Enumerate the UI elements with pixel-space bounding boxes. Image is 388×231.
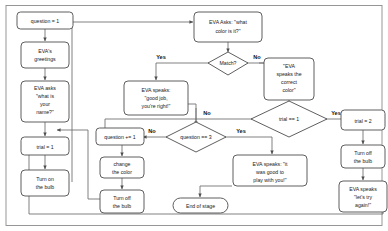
node-asks-color-line1: color is it?" [215,28,240,34]
edge-goodtoplay-endofstage [200,186,232,197]
node-good-to-play-line2: play with you!" [253,177,286,183]
edge-label-trial-no: No [203,110,211,116]
node-question1-line0: question = 1 [31,18,60,24]
node-try-again[interactable]: EVA speaks "let's try again!" [339,181,387,212]
node-turn-on-bulb-line0: Turn on [36,176,54,182]
node-good-job[interactable]: EVA speaks: "good job, you're right!" [124,81,188,115]
node-change-color[interactable]: change the color [100,157,144,178]
node-try-again-line1: "let's try [354,194,373,200]
node-asks-name-line2: your [40,101,50,107]
node-good-job-line2: you're right!" [142,103,171,109]
node-greetings[interactable]: EVA's greetings [21,42,69,68]
node-correct-color-line0: "EVA [283,63,295,69]
node-good-to-play[interactable]: EVA speaks: "it was good to play with yo… [233,155,307,186]
node-good-to-play-line1: was good to [256,169,284,175]
node-asks-color-line0: EVA Asks: "what [209,19,247,25]
node-turn-on-bulb-line1: the bulb [36,184,55,190]
node-trial1-line0: trial = 1 [36,144,53,150]
edge-match-goodjob-yes [156,63,209,80]
edge-label-trial-yes: Yes [331,110,341,116]
flowchart-canvas: Yes No Yes No No Yes question = 1 EVA's … [0,0,388,231]
node-greetings-line1: greetings [34,56,56,62]
node-turn-off-bulb-right[interactable]: Turn off the bulb [341,145,385,168]
node-match-decision-line0: Match? [219,60,236,66]
node-trial-eq-1-decision[interactable]: trial == 1 [251,101,327,137]
node-trial2[interactable]: trial = 2 [341,110,385,130]
node-correct-color[interactable]: "EVA speaks the correct color" [264,58,314,100]
node-good-job-line0: EVA speaks: [141,87,170,93]
node-trial1[interactable]: trial = 1 [21,137,69,155]
edges [29,22,383,214]
node-end-of-stage[interactable]: End of stage [173,198,228,213]
node-correct-color-line3: color" [282,87,295,93]
node-correct-color-line2: correct [281,79,297,85]
node-turn-off-bulb-middle[interactable]: Turn off the bulb [100,190,144,213]
node-turn-off-bulb-middle-line1: the bulb [113,203,132,209]
node-turn-off-bulb-right-line0: Turn off [354,150,372,156]
node-turn-on-bulb[interactable]: Turn on the bulb [21,170,69,196]
node-try-again-line0: EVA speaks [349,186,377,192]
node-question-eq-3-line0: question == 3 [180,134,212,140]
node-good-to-play-line0: EVA speaks: "it [253,161,288,167]
node-try-again-line2: again!" [355,202,371,208]
edge-label-match-yes: Yes [156,54,166,60]
node-question1[interactable]: question = 1 [17,12,73,29]
edge-questioneq3-goodtoplay-yes [225,137,272,154]
node-change-color-line0: change [113,161,130,167]
node-trial2-line0: trial = 2 [354,118,371,124]
node-asks-name-line0: EVA asks [34,85,56,91]
edge-label-question-yes: Yes [236,128,246,134]
node-change-color-line1: the color [112,169,132,175]
node-trial-eq-1-line0: trial == 1 [279,116,299,122]
node-question-increment-line0: question += 1 [104,134,136,140]
node-asks-color[interactable]: EVA Asks: "what color is it?" [194,12,262,42]
node-question-eq-3-decision[interactable]: question == 3 [166,122,226,152]
node-greetings-line0: EVA's [38,48,52,54]
edge-label-match-no: No [253,54,261,60]
node-asks-name-line1: "what is [36,93,54,99]
node-asks-name[interactable]: EVA asks "what is your name?" [21,81,69,122]
node-match-decision[interactable]: Match? [208,52,248,75]
edge-label-question-no: No [148,128,156,134]
node-question-increment[interactable]: question += 1 [96,128,144,145]
node-turn-off-bulb-right-line1: the bulb [354,158,373,164]
node-asks-name-line3: name?" [36,109,54,115]
node-good-job-line1: "good job, [144,95,167,101]
node-end-of-stage-line0: End of stage [186,203,215,209]
node-turn-off-bulb-middle-line0: Turn off [113,195,131,201]
node-correct-color-line1: speaks the [276,71,301,77]
